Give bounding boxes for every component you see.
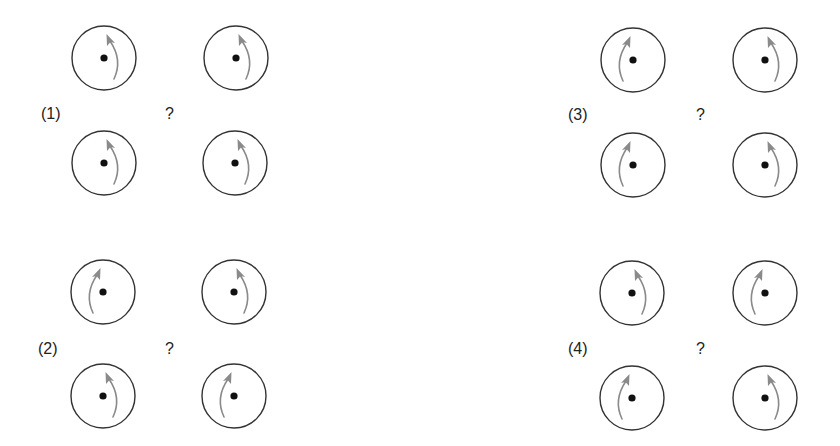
circles-layer: [71, 26, 797, 430]
group-label-3: (3): [568, 106, 588, 124]
center-dot: [761, 289, 768, 296]
arrowhead-icon: [223, 372, 232, 384]
rotation-arrow-arc: [771, 148, 779, 186]
center-dot: [629, 56, 636, 63]
center-dot: [628, 289, 635, 296]
rotating-disc-4-bottom-left: [600, 366, 664, 430]
rotating-disc-1-bottom-right: [203, 131, 267, 195]
question-mark-2: ?: [165, 340, 174, 358]
center-dot: [230, 392, 237, 399]
rotating-disc-2-top-left: [71, 260, 135, 324]
arrowhead-icon: [754, 269, 763, 281]
rotation-arrow-arc: [618, 381, 626, 419]
rotation-arrow-arc: [619, 43, 627, 81]
arrowhead-icon: [237, 268, 246, 280]
rotating-disc-2-top-right: [202, 260, 266, 324]
center-dot: [100, 54, 107, 61]
rotating-disc-3-top-left: [601, 28, 665, 92]
center-dot: [629, 161, 636, 168]
group-label-1: (1): [41, 105, 61, 123]
center-dot: [761, 161, 768, 168]
arrowhead-icon: [621, 374, 630, 386]
arrowhead-icon: [106, 372, 115, 384]
rotation-arrow-arc: [241, 146, 249, 184]
rotating-disc-2-bottom-left: [71, 364, 135, 428]
center-dot: [100, 159, 107, 166]
arrowhead-icon: [635, 269, 644, 281]
center-dot: [761, 394, 768, 401]
rotating-disc-1-bottom-left: [72, 131, 136, 195]
center-dot: [99, 288, 106, 295]
center-dot: [232, 54, 239, 61]
center-dot: [231, 159, 238, 166]
rotation-arrow-arc: [109, 379, 117, 417]
arrowhead-icon: [622, 36, 631, 48]
rotation-arrow-arc: [242, 41, 250, 79]
rotation-arrow-arc: [89, 275, 97, 313]
arrowhead-icon: [107, 139, 116, 151]
question-mark-4: ?: [696, 340, 705, 358]
rotating-disc-4-top-left: [600, 261, 664, 325]
rotation-arrow-arc: [220, 379, 228, 417]
group-label-4: (4): [568, 340, 588, 358]
arrowhead-icon: [238, 139, 247, 151]
rotation-arrow-arc: [771, 381, 779, 419]
rotating-disc-4-bottom-right: [733, 366, 797, 430]
rotation-arrow-arc: [110, 146, 118, 184]
arrowhead-icon: [768, 374, 777, 386]
arrowhead-icon: [239, 34, 248, 46]
rotating-disc-1-top-right: [204, 26, 268, 90]
rotating-disc-3-top-right: [733, 28, 797, 92]
group-label-2: (2): [38, 340, 58, 358]
rotation-arrow-arc: [638, 276, 646, 314]
arrowhead-icon: [768, 141, 777, 153]
arrowhead-icon: [768, 36, 777, 48]
arrowhead-icon: [622, 141, 631, 153]
diagram-canvas: [0, 0, 840, 446]
rotating-disc-1-top-left: [72, 26, 136, 90]
rotating-disc-3-bottom-left: [601, 133, 665, 197]
rotation-arrow-arc: [110, 41, 118, 79]
question-mark-3: ?: [696, 106, 705, 124]
question-mark-1: ?: [165, 105, 174, 123]
rotation-arrow-arc: [771, 43, 779, 81]
rotation-arrow-arc: [751, 276, 759, 314]
center-dot: [99, 392, 106, 399]
center-dot: [230, 288, 237, 295]
rotating-disc-2-bottom-right: [202, 364, 266, 428]
rotation-arrow-arc: [240, 275, 248, 313]
arrowhead-icon: [107, 34, 116, 46]
center-dot: [761, 56, 768, 63]
center-dot: [628, 394, 635, 401]
rotating-disc-3-bottom-right: [733, 133, 797, 197]
rotation-arrow-arc: [619, 148, 627, 186]
arrowhead-icon: [92, 268, 101, 280]
rotating-disc-4-top-right: [733, 261, 797, 325]
